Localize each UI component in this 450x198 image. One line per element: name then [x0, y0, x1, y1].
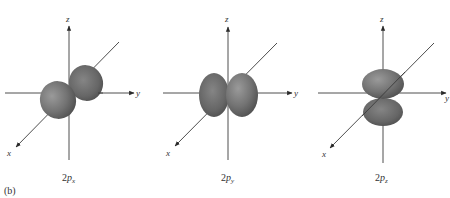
p-orbitals-figure: z y x 2px (b) z y x 2py	[0, 0, 450, 198]
z-axis-label: z	[224, 14, 229, 24]
orbital-caption-2py: 2py	[221, 172, 235, 185]
x-axis-label: x	[165, 148, 170, 158]
orbital-lobe-right	[226, 73, 258, 117]
orbital-caption-2px: 2px	[62, 172, 76, 185]
panel-label: (b)	[4, 185, 16, 197]
orbital-lobe-bottom	[363, 98, 403, 126]
y-axis-label: y	[135, 88, 140, 98]
x-axis-label: x	[6, 148, 11, 158]
y-axis-label: y	[444, 93, 449, 103]
orbital-lobe-left	[199, 73, 229, 117]
z-axis-label: z	[65, 14, 70, 24]
panel-2pz: z y x 2pz	[318, 14, 449, 185]
panel-2py: z y x 2py	[163, 14, 298, 185]
z-axis-label: z	[379, 14, 384, 24]
panel-2px: z y x 2px (b)	[4, 14, 140, 197]
orbital-caption-2pz: 2pz	[375, 172, 388, 185]
y-axis-label: y	[293, 88, 298, 98]
x-axis-label: x	[321, 149, 326, 159]
